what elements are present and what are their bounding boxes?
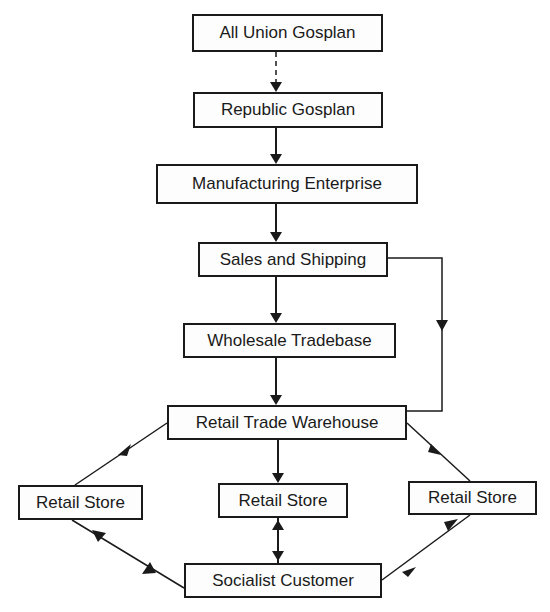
edge-sales-to-warehouse-bypass: [388, 258, 448, 411]
edge-right-store-customer: [382, 515, 470, 580]
arrow-down-icon: [270, 232, 282, 242]
arrow-down-icon: [272, 551, 284, 561]
node-retail-store-left: Retail Store: [18, 485, 143, 520]
node-manufacturing-enterprise: Manufacturing Enterprise: [156, 164, 418, 204]
edge-center-store-customer: [272, 518, 284, 563]
edge-republic-to-manufacturing: [270, 127, 282, 164]
arrow-down-icon: [270, 154, 282, 164]
node-label: Wholesale Tradebase: [207, 331, 371, 351]
edge-all-union-to-republic: [270, 52, 282, 92]
edge-sales-to-wholesale: [270, 277, 282, 323]
node-label: Retail Store: [428, 488, 517, 508]
arrow-up-icon: [272, 520, 284, 530]
edge-wholesale-to-warehouse: [270, 358, 282, 405]
arrow-icon: [428, 444, 441, 455]
arrow-down-icon: [270, 395, 282, 405]
node-label: Republic Gosplan: [221, 100, 355, 120]
node-retail-store-center: Retail Store: [218, 483, 348, 518]
node-label: Sales and Shipping: [220, 250, 367, 270]
edge-warehouse-to-right-store: [407, 423, 470, 481]
edge-warehouse-to-left-store: [75, 423, 167, 485]
node-all-union-gosplan: All Union Gosplan: [192, 14, 383, 52]
arrow-down-icon: [270, 313, 282, 323]
arrow-down-icon: [270, 82, 282, 92]
edge-left-store-customer: [72, 520, 184, 588]
node-label: All Union Gosplan: [219, 23, 355, 43]
node-label: Retail Store: [239, 491, 328, 511]
edge-manufacturing-to-sales: [270, 204, 282, 242]
arrow-down-icon: [272, 473, 284, 483]
node-socialist-customer: Socialist Customer: [184, 563, 382, 598]
node-label: Socialist Customer: [212, 571, 354, 591]
edge-warehouse-to-center-store: [272, 440, 284, 483]
arrow-down-icon: [436, 320, 448, 331]
arrow-icon: [118, 444, 131, 456]
node-label: Retail Store: [36, 493, 125, 513]
node-label: Retail Trade Warehouse: [196, 413, 379, 433]
node-wholesale-tradebase: Wholesale Tradebase: [183, 323, 396, 358]
node-label: Manufacturing Enterprise: [192, 174, 382, 194]
node-retail-store-right: Retail Store: [408, 481, 537, 515]
arrow-icon: [402, 567, 416, 577]
node-retail-trade-warehouse: Retail Trade Warehouse: [167, 405, 407, 440]
node-republic-gosplan: Republic Gosplan: [193, 92, 383, 128]
node-sales-and-shipping: Sales and Shipping: [198, 242, 388, 277]
